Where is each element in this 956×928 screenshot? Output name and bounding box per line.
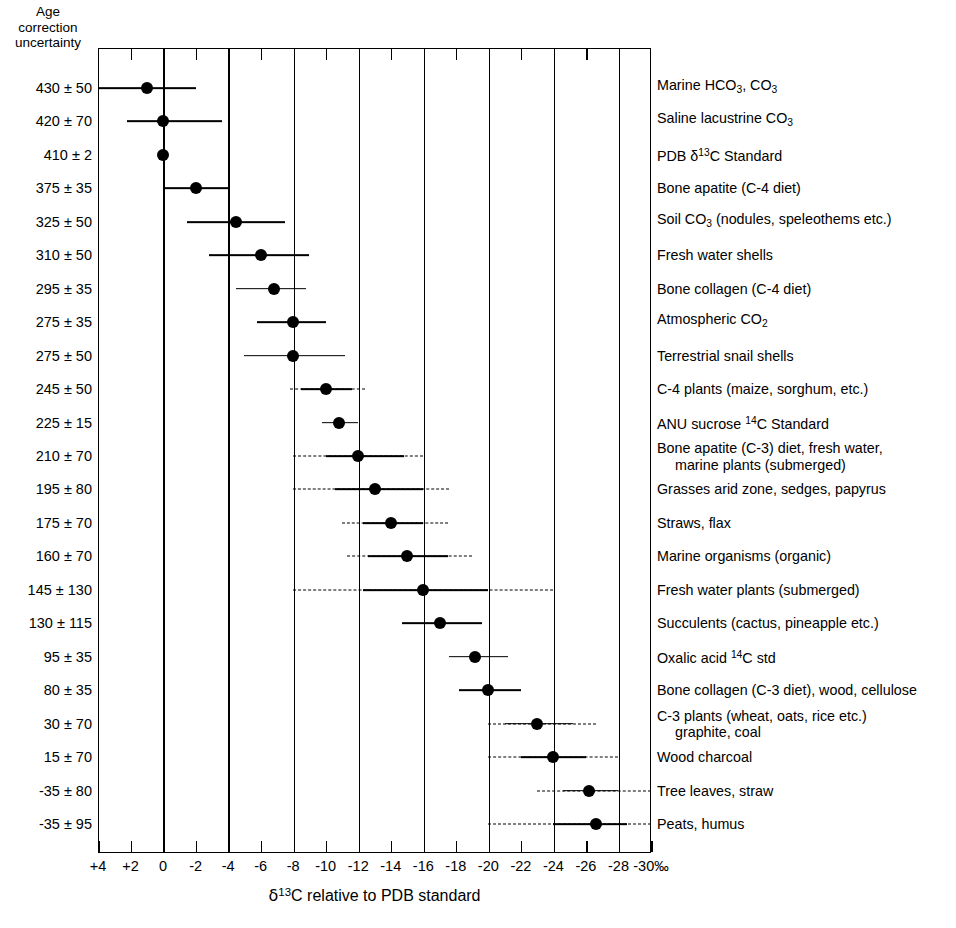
tick-top-2 [131,49,132,60]
tick-top--16 [424,49,425,60]
x-tick-label--14: -14 [380,858,401,874]
age-uncertainty-label: 420 ± 70 [0,114,92,129]
age-uncertainty-label: 210 ± 70 [0,449,92,464]
data-point-marker [320,383,332,395]
data-point-marker [255,249,267,261]
axis-caption: Age correction uncertainty [0,4,96,51]
x-tick-label--20: -20 [478,858,499,874]
age-uncertainty-label: 410 ± 2 [0,148,92,163]
tick-top-0 [163,49,164,60]
age-uncertainty-label: 275 ± 50 [0,348,92,363]
data-point-marker [531,718,543,730]
age-uncertainty-label: 160 ± 70 [0,549,92,564]
tick-bottom--14 [391,841,392,852]
material-label: C-3 plants (wheat, oats, rice etc.)graph… [657,707,956,740]
material-label: C-4 plants (maize, sorghum, etc.) [657,381,956,398]
data-point-marker [268,283,280,295]
x-tick-label-0: 0 [159,858,167,874]
age-uncertainty-label: 130 ± 115 [0,616,92,631]
age-uncertainty-label: 15 ± 70 [0,750,92,765]
material-label: Soil CO3 (nodules, speleothems etc.) [657,211,956,232]
tick-top--18 [456,49,457,60]
tick-top--8 [294,49,295,60]
material-label: Bone apatite (C-4 diet) [657,180,956,197]
age-uncertainty-label: 375 ± 35 [0,181,92,196]
tick-bottom-0 [163,841,164,852]
tick-bottom--26 [586,841,587,852]
age-uncertainty-label: -35 ± 95 [0,817,92,832]
tick-bottom--28 [619,841,620,852]
x-tick-label--4: -4 [222,858,235,874]
tick-top--24 [554,49,555,60]
solid-range-bar [127,121,221,123]
data-point-marker [287,350,299,362]
axis-caption-line-3: uncertainty [0,35,96,51]
gridline--20 [489,49,490,852]
data-point-marker [369,483,381,495]
gridline-0 [163,49,164,852]
data-point-marker [230,216,242,228]
x-tick-label--28: -28 [608,858,629,874]
x-tick-label--2: -2 [189,858,202,874]
x-axis-tick-labels: +4+20-2-4-6-8-10-12-14-16-18-20-22-24-26… [0,858,956,880]
data-point-marker [190,182,202,194]
material-label: Wood charcoal [657,749,956,766]
tick-top--22 [521,49,522,60]
material-label: ANU sucrose 14C Standard [657,413,956,432]
material-label: Atmospheric CO2 [657,312,956,333]
x-tick-label--26: -26 [575,858,596,874]
material-label: Marine HCO3, CO3 [657,77,956,98]
age-uncertainty-label: 225 ± 15 [0,415,92,430]
tick-bottom-2 [131,841,132,852]
x-axis-title: δ13C relative to PDB standard [98,886,651,905]
tick-bottom--6 [261,841,262,852]
material-label: Tree leaves, straw [657,782,956,799]
x-tick-label--6: -6 [254,858,267,874]
tick-bottom--12 [359,841,360,852]
age-uncertainty-label: 95 ± 35 [0,649,92,664]
x-tick-label--18: -18 [445,858,466,874]
x-tick-label--30: -30‰ [633,858,668,874]
data-point-marker [417,584,429,596]
age-uncertainty-label: 245 ± 50 [0,382,92,397]
tick-top--28 [619,49,620,60]
material-label: Fresh water plants (submerged) [657,582,956,599]
axis-caption-line-2: correction [0,20,96,36]
age-uncertainty-label: 80 ± 35 [0,683,92,698]
tick-bottom--18 [456,841,457,852]
material-label: Succulents (cactus, pineapple etc.) [657,615,956,632]
tick-bottom--30 [651,841,652,852]
data-point-marker [469,651,481,663]
material-label: Bone apatite (C-3) diet, fresh water,mar… [657,440,956,473]
age-uncertainty-label: 275 ± 35 [0,315,92,330]
age-uncertainty-label: 145 ± 130 [0,583,92,598]
data-point-marker [401,550,413,562]
tick-bottom--22 [521,841,522,852]
tick-bottom-4 [98,841,99,852]
data-point-marker [583,785,595,797]
tick-bottom--16 [424,841,425,852]
data-point-marker [333,417,345,429]
plot-area [98,48,651,853]
material-label: Bone collagen (C-4 diet) [657,280,956,297]
material-label: Fresh water shells [657,247,956,264]
x-tick-label--16: -16 [413,858,434,874]
gridline--16 [424,49,425,852]
data-point-marker [141,82,153,94]
material-label: Peats, humus [657,816,956,833]
tick-top--20 [489,49,490,60]
data-point-marker [352,450,364,462]
x-tick-label--12: -12 [348,858,369,874]
solid-range-bar [326,455,404,457]
data-point-marker [434,617,446,629]
tick-bottom--20 [489,841,490,852]
data-point-marker [287,316,299,328]
tick-top--10 [326,49,327,60]
x-tick-label--22: -22 [510,858,531,874]
data-point-marker [385,517,397,529]
tick-top--26 [586,49,587,60]
data-point-marker [157,149,169,161]
gridline--28 [619,49,620,852]
age-uncertainty-label: 310 ± 50 [0,248,92,263]
data-point-marker [547,751,559,763]
